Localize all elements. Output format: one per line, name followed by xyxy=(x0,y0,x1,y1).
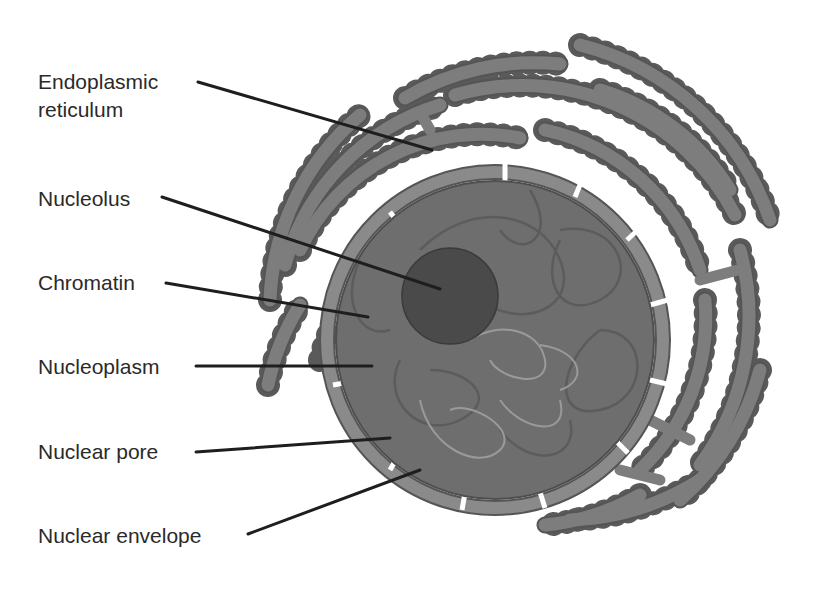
label-er-line1: Endoplasmic xyxy=(38,69,158,95)
label-chromatin: Chromatin xyxy=(38,270,135,296)
nucleolus xyxy=(402,248,498,344)
label-endoplasmic-reticulum: Endoplasmic reticulum xyxy=(38,69,158,123)
label-nuclear-pore: Nuclear pore xyxy=(38,439,158,465)
label-nucleolus: Nucleolus xyxy=(38,186,130,212)
leader-line-nuclear-envelope xyxy=(248,470,420,534)
label-er-line2: reticulum xyxy=(38,97,158,123)
label-nuclear-envelope: Nuclear envelope xyxy=(38,523,201,549)
label-nucleoplasm: Nucleoplasm xyxy=(38,354,159,380)
nucleoplasm xyxy=(336,181,654,499)
